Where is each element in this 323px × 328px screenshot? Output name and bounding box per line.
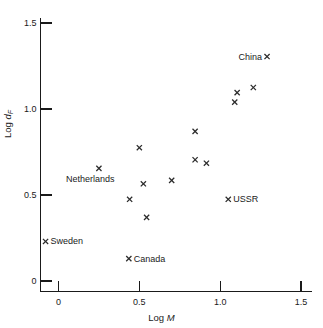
scatter-plot-figure: 00.51.01.500.51.01.5 SwedenNetherlandsCa…: [0, 0, 323, 328]
data-point-4: [137, 145, 142, 150]
data-point-china: [264, 54, 269, 59]
data-point-netherlands: [96, 166, 101, 171]
y-axis-subscript: F: [7, 110, 14, 114]
data-point-14: [251, 85, 256, 90]
data-point-8: [193, 129, 198, 134]
y-tick-label-3: 1.5: [24, 18, 37, 28]
data-point-7: [169, 178, 174, 183]
point-label-sweden: Sweden: [51, 236, 84, 246]
y-tick-label-2: 1.0: [24, 104, 37, 114]
point-label-ussr: USSR: [233, 194, 258, 204]
axes: [41, 18, 313, 292]
y-tick-label-0: 0: [31, 276, 36, 286]
x-tick-label-1: 0.5: [119, 297, 159, 307]
data-point-13: [232, 100, 237, 105]
data-point-ussr: [226, 197, 231, 202]
point-label-canada: Canada: [134, 254, 166, 264]
data-point-9: [193, 157, 198, 162]
plot-canvas: [0, 0, 323, 328]
axis-ticks: [41, 23, 302, 292]
x-axis-symbol: M: [167, 312, 175, 323]
data-point-canada: [126, 256, 131, 261]
data-point-2: [127, 197, 132, 202]
x-axis-title: Log M: [0, 312, 323, 323]
x-tick-label-2: 1.0: [200, 297, 240, 307]
point-label-china: China: [239, 52, 263, 62]
data-point-6: [144, 215, 149, 220]
point-label-netherlands: Netherlands: [66, 174, 115, 184]
data-point-sweden: [43, 239, 48, 244]
data-point-10: [204, 161, 209, 166]
y-tick-label-1: 0.5: [24, 190, 37, 200]
x-tick-label-0: 0: [39, 297, 79, 307]
data-markers: [43, 54, 270, 261]
y-axis-symbol: d: [2, 114, 13, 119]
data-point-5: [141, 181, 146, 186]
y-axis-title: Log dF: [2, 110, 14, 138]
data-point-12: [235, 90, 240, 95]
x-tick-label-3: 1.5: [281, 297, 321, 307]
